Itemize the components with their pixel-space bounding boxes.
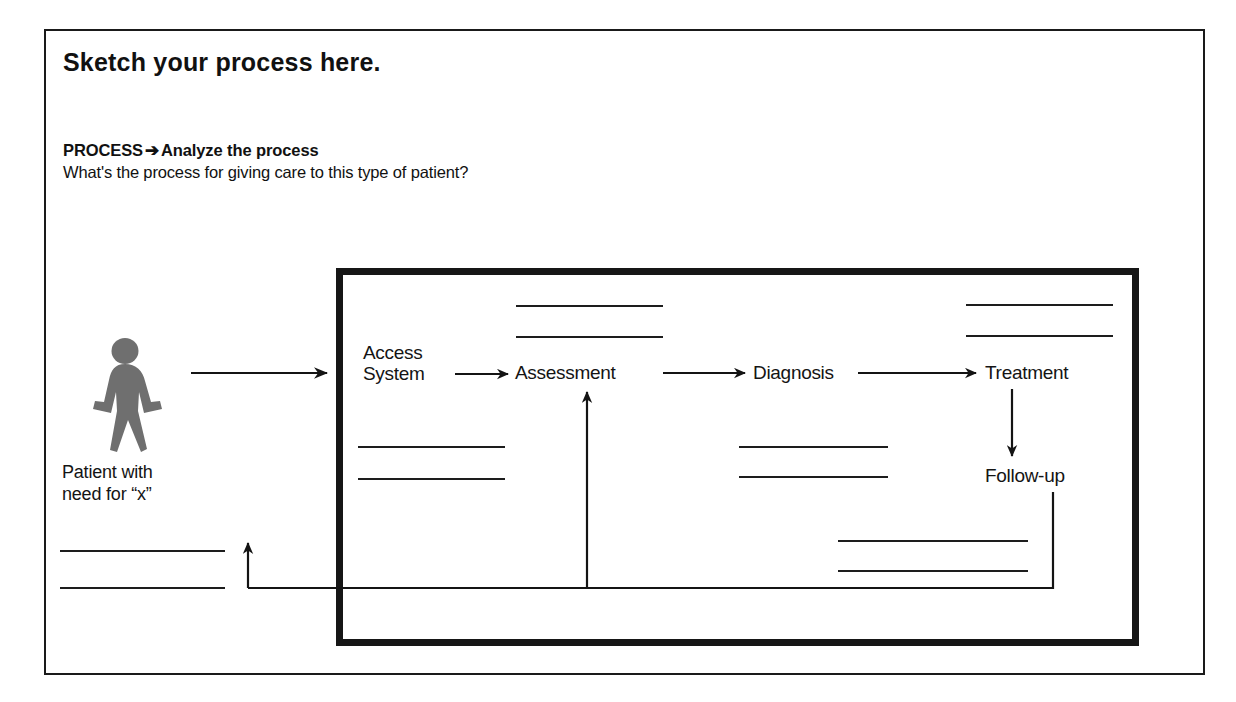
process-boundary-box — [336, 268, 1139, 646]
node-access-system-line2: System — [363, 363, 425, 384]
node-access-system: Access System — [363, 342, 425, 384]
node-assessment: Assessment — [515, 362, 615, 383]
patient-caption-line1: Patient with — [62, 461, 153, 483]
patient-caption-line2: need for “x” — [62, 483, 153, 505]
process-heading: PROCESS➔Analyze the process — [63, 140, 319, 161]
patient-caption: Patient with need for “x” — [62, 461, 153, 505]
process-question: What's the process for giving care to th… — [63, 163, 468, 182]
page-title: Sketch your process here. — [63, 48, 381, 77]
node-access-system-line1: Access — [363, 342, 425, 363]
worksheet-page: Sketch your process here. PROCESS➔Analyz… — [0, 0, 1236, 702]
process-keyword: PROCESS — [63, 141, 143, 159]
node-treatment: Treatment — [985, 362, 1068, 383]
right-arrow-icon: ➔ — [143, 141, 161, 160]
node-follow-up: Follow-up — [985, 465, 1065, 486]
node-diagnosis: Diagnosis — [753, 362, 834, 383]
process-action: Analyze the process — [161, 141, 319, 159]
